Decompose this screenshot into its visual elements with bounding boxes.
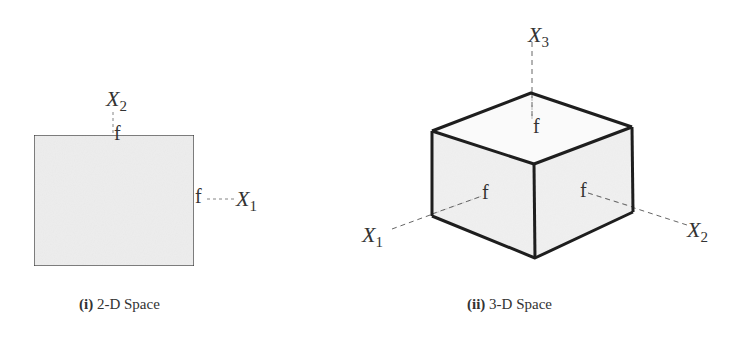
square-2d bbox=[34, 135, 194, 266]
panel-3d-diagram bbox=[392, 42, 690, 258]
axis-label-x1-3d: X1 bbox=[362, 222, 383, 251]
axis-subscript: 1 bbox=[249, 198, 257, 214]
axis-label-x3-3d: X3 bbox=[528, 22, 549, 51]
face-label-right-2d: f bbox=[195, 185, 202, 208]
axis-name: X bbox=[236, 186, 249, 211]
caption-text: 2-D Space bbox=[97, 296, 160, 312]
axis-subscript: 2 bbox=[119, 98, 127, 114]
caption-3d: (ii) 3-D Space bbox=[467, 296, 552, 313]
caption-prefix: (i) bbox=[79, 296, 93, 312]
axis-label-x1-2d: X1 bbox=[236, 186, 257, 215]
axis-subscript: 1 bbox=[375, 234, 383, 250]
axis-subscript: 2 bbox=[700, 229, 708, 245]
caption-text: 3-D Space bbox=[489, 296, 552, 312]
axis-name: X bbox=[687, 217, 700, 242]
axis-name: X bbox=[362, 222, 375, 247]
axis-name: X bbox=[528, 22, 541, 47]
face-label-left-3d: f bbox=[482, 181, 489, 204]
axis-name: X bbox=[106, 86, 119, 111]
axis-label-x2-2d: X2 bbox=[106, 86, 127, 115]
axis-subscript: 3 bbox=[541, 34, 549, 50]
axis-label-x2-3d: X2 bbox=[687, 217, 708, 246]
face-label-top-3d: f bbox=[533, 115, 540, 138]
caption-2d: (i) 2-D Space bbox=[79, 296, 160, 313]
face-label-top-2d: f bbox=[114, 122, 121, 145]
panel-2d-diagram bbox=[34, 112, 234, 266]
caption-prefix: (ii) bbox=[467, 296, 485, 312]
face-label-right-3d: f bbox=[580, 179, 587, 202]
